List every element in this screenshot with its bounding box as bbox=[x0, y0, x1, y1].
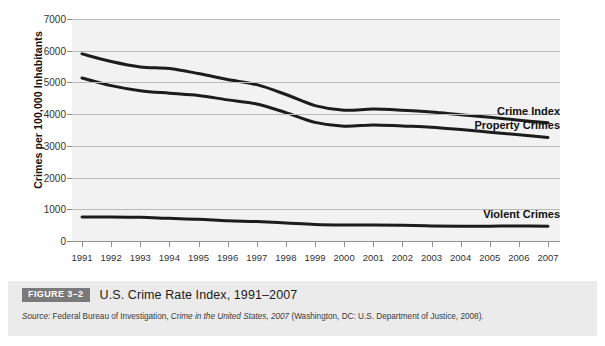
gridline bbox=[72, 178, 560, 179]
x-tick-mark bbox=[140, 241, 141, 247]
y-tick-mark bbox=[67, 178, 72, 179]
y-tick-mark bbox=[67, 146, 72, 147]
x-tick-mark bbox=[257, 241, 258, 247]
x-tick-mark bbox=[548, 241, 549, 247]
x-tick-mark bbox=[315, 241, 316, 247]
chart-plot: Crimes per 100,000 Inhabitants 010002000… bbox=[0, 0, 605, 275]
x-tick-mark bbox=[402, 241, 403, 247]
y-tick-mark bbox=[67, 241, 72, 242]
x-tick-mark bbox=[344, 241, 345, 247]
x-tick-mark bbox=[199, 241, 200, 247]
x-tick-mark bbox=[286, 241, 287, 247]
figure-container: Crimes per 100,000 Inhabitants 010002000… bbox=[0, 0, 605, 346]
gridline bbox=[72, 114, 560, 115]
x-tick-mark bbox=[519, 241, 520, 247]
x-tick-mark bbox=[169, 241, 170, 247]
source-text-1: Federal Bureau of Investigation, bbox=[50, 312, 171, 321]
y-tick-mark bbox=[67, 51, 72, 52]
gridline bbox=[72, 51, 560, 52]
x-tick-mark bbox=[432, 241, 433, 247]
x-tick-mark bbox=[82, 241, 83, 247]
figure-source-note: Source: Federal Bureau of Investigation,… bbox=[22, 312, 484, 321]
y-tick-mark bbox=[67, 209, 72, 210]
x-tick-mark bbox=[373, 241, 374, 247]
gridline bbox=[72, 19, 560, 20]
y-tick-mark bbox=[67, 82, 72, 83]
source-publication-title: Crime in the United States, 2007 bbox=[171, 312, 289, 321]
source-label: Source: bbox=[22, 312, 50, 321]
figure-title: U.S. Crime Rate Index, 1991–2007 bbox=[100, 288, 298, 302]
series-line-crime-index bbox=[82, 54, 548, 123]
series-label-violent-crimes: Violent Crimes bbox=[483, 208, 560, 220]
figure-number-badge: FIGURE 3–2 bbox=[22, 288, 90, 302]
series-label-crime-index: Crime Index bbox=[497, 105, 560, 117]
caption-row: FIGURE 3–2 U.S. Crime Rate Index, 1991–2… bbox=[22, 288, 297, 302]
gridline bbox=[72, 82, 560, 83]
x-tick-mark bbox=[461, 241, 462, 247]
x-tick-mark bbox=[228, 241, 229, 247]
source-text-2: (Washington, DC: U.S. Department of Just… bbox=[289, 312, 483, 321]
series-line-violent-crimes bbox=[82, 217, 548, 226]
gridline bbox=[72, 146, 560, 147]
series-lines-svg bbox=[0, 0, 605, 275]
gridline bbox=[72, 241, 560, 242]
x-tick-mark bbox=[490, 241, 491, 247]
x-tick-label: 2007 bbox=[526, 252, 570, 263]
series-label-property-crimes: Property Crimes bbox=[474, 119, 560, 131]
y-tick-mark bbox=[67, 114, 72, 115]
x-tick-mark bbox=[111, 241, 112, 247]
y-tick-mark bbox=[67, 19, 72, 20]
